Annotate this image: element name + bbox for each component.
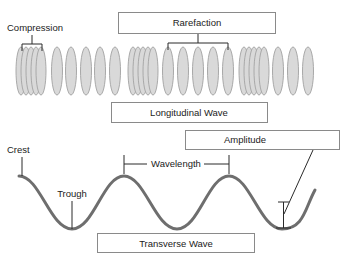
transverse-wave-curve (19, 176, 315, 229)
wavelength-label: Wavelength (151, 158, 201, 169)
amplitude-marker (276, 202, 291, 228)
compression-group (16, 47, 46, 95)
compression-group (239, 47, 269, 95)
longitudinal-caption: Longitudinal Wave (150, 107, 228, 118)
particle-layer (36, 47, 46, 95)
particle-layer (288, 47, 299, 95)
particle-layer (52, 47, 63, 95)
particle-layer (95, 47, 106, 95)
rarefaction-group (163, 47, 234, 95)
transverse-caption: Transverse Wave (139, 238, 213, 249)
rarefaction-label: Rarefaction (173, 17, 222, 28)
amplitude-label: Amplitude (224, 134, 266, 145)
particle-layer (178, 47, 189, 95)
particle-layer (273, 47, 284, 95)
compression-label: Compression (7, 22, 63, 33)
particle-layer (110, 47, 121, 95)
particle-layer (259, 47, 269, 95)
rarefaction-group (52, 47, 121, 95)
crest-label: Crest (7, 144, 30, 155)
particle-layer (223, 47, 234, 95)
particle-layer (81, 47, 92, 95)
particle-layer (148, 47, 158, 95)
particle-layer (66, 47, 77, 95)
longitudinal-wave (16, 47, 314, 95)
compression-group (128, 47, 158, 95)
particle-layer (303, 47, 314, 95)
particle-layer (208, 47, 219, 95)
particle-layer (193, 47, 204, 95)
trough-label: Trough (57, 188, 87, 199)
particle-layer (163, 47, 174, 95)
rarefaction-group (273, 47, 314, 95)
wave-diagram: Compression Rarefaction Longitudinal Wav… (0, 0, 344, 263)
